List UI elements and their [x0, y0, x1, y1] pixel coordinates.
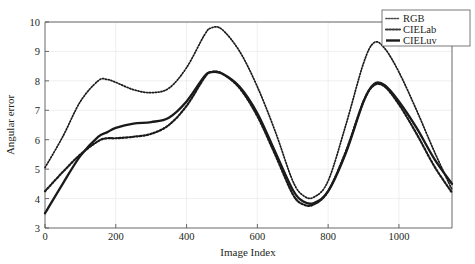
x-tick-label: 800 — [320, 231, 336, 242]
x-tick-label: 400 — [179, 231, 195, 242]
angular-error-line-chart: 10 9 8 7 6 5 4 3 0 200 400 600 800 1000 … — [0, 0, 475, 264]
y-tick-label: 4 — [35, 194, 41, 205]
x-tick-label: 200 — [108, 231, 124, 242]
y-tick-labels: 10 9 8 7 6 5 4 3 — [30, 17, 41, 234]
grid-horizontal — [45, 22, 452, 199]
legend-label-cielab: CIELab — [403, 24, 436, 35]
y-tick-label: 10 — [30, 17, 41, 28]
x-tick-marks — [45, 224, 399, 228]
y-tick-label: 6 — [35, 135, 40, 146]
y-tick-label: 7 — [35, 105, 40, 116]
series-line-rgb — [45, 27, 452, 199]
x-tick-labels: 0 200 400 600 800 1000 — [42, 231, 409, 242]
data-series-group — [45, 27, 452, 214]
y-tick-label: 5 — [35, 164, 40, 175]
legend-label-cieluv: CIELuv — [403, 35, 438, 46]
x-tick-label: 1000 — [388, 231, 409, 242]
x-tick-label: 0 — [42, 231, 47, 242]
axes-frame — [45, 22, 452, 228]
x-tick-label: 600 — [249, 231, 265, 242]
y-tick-label: 9 — [35, 46, 40, 57]
y-tick-marks — [45, 22, 49, 228]
x-axis-title: Image Index — [220, 246, 276, 258]
chart-figure: 10 9 8 7 6 5 4 3 0 200 400 600 800 1000 … — [0, 0, 475, 264]
series-line-cieluv — [45, 72, 452, 214]
y-tick-label: 8 — [35, 76, 40, 87]
y-axis-title: Angular error — [4, 95, 16, 156]
legend: RGB CIELab CIELuv — [382, 10, 470, 46]
legend-label-rgb: RGB — [403, 13, 425, 24]
y-tick-label: 3 — [35, 223, 40, 234]
